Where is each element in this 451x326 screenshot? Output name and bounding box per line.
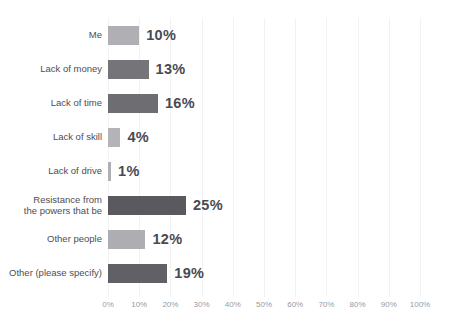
- category-label: Lack of skill: [0, 120, 102, 154]
- bar-container: 10%: [108, 18, 451, 52]
- bar-value-label: 4%: [127, 129, 149, 145]
- bar: [108, 26, 139, 45]
- x-tick-label: 70%: [318, 300, 334, 309]
- x-tick-label: 100%: [410, 300, 430, 309]
- bar: [108, 264, 167, 283]
- bar-value-label: 12%: [152, 231, 182, 247]
- bar-row: Lack of time16%: [0, 86, 451, 120]
- bar-container: 12%: [108, 222, 451, 256]
- bar-container: 13%: [108, 52, 451, 86]
- bar-row: Lack of skill4%: [0, 120, 451, 154]
- bar-value-label: 16%: [165, 95, 195, 111]
- bar-container: 16%: [108, 86, 451, 120]
- bar-value-label: 13%: [156, 61, 186, 77]
- bar-container: 19%: [108, 256, 451, 290]
- bar-container: 25%: [108, 188, 451, 222]
- x-tick-label: 60%: [287, 300, 303, 309]
- bar: [108, 230, 145, 249]
- x-tick-label: 90%: [381, 300, 397, 309]
- bar-rows: Me10%Lack of money13%Lack of time16%Lack…: [0, 18, 451, 290]
- bar: [108, 60, 149, 79]
- x-tick-label: 80%: [350, 300, 366, 309]
- category-label: Lack of money: [0, 52, 102, 86]
- x-tick-label: 0%: [102, 300, 114, 309]
- category-label: Resistance from the powers that be: [0, 188, 102, 222]
- bar-row: Me10%: [0, 18, 451, 52]
- category-label: Other people: [0, 222, 102, 256]
- bar: [108, 162, 111, 181]
- category-label: Lack of time: [0, 86, 102, 120]
- x-tick-label: 50%: [256, 300, 272, 309]
- category-label: Lack of drive: [0, 154, 102, 188]
- category-label: Me: [0, 18, 102, 52]
- bar-row: Lack of money13%: [0, 52, 451, 86]
- bar-value-label: 25%: [193, 197, 223, 213]
- x-tick-label: 40%: [225, 300, 241, 309]
- bar-row: Other (please specify)19%: [0, 256, 451, 290]
- bar: [108, 196, 186, 215]
- bar: [108, 128, 120, 147]
- bar-container: 4%: [108, 120, 451, 154]
- bar-value-label: 10%: [146, 27, 176, 43]
- x-tick-label: 10%: [131, 300, 147, 309]
- x-axis: 0%10%20%30%40%50%60%70%80%90%100%: [108, 300, 420, 316]
- x-tick-label: 20%: [162, 300, 178, 309]
- bar-row: Lack of drive1%: [0, 154, 451, 188]
- chart-title: [0, 0, 451, 3]
- bar: [108, 94, 158, 113]
- bar-value-label: 1%: [118, 163, 140, 179]
- bar-row: Other people12%: [0, 222, 451, 256]
- bar-container: 1%: [108, 154, 451, 188]
- category-label: Other (please specify): [0, 256, 102, 290]
- bar-chart: Me10%Lack of money13%Lack of time16%Lack…: [0, 0, 451, 326]
- bar-row: Resistance from the powers that be25%: [0, 188, 451, 222]
- x-tick-label: 30%: [194, 300, 210, 309]
- bar-value-label: 19%: [174, 265, 204, 281]
